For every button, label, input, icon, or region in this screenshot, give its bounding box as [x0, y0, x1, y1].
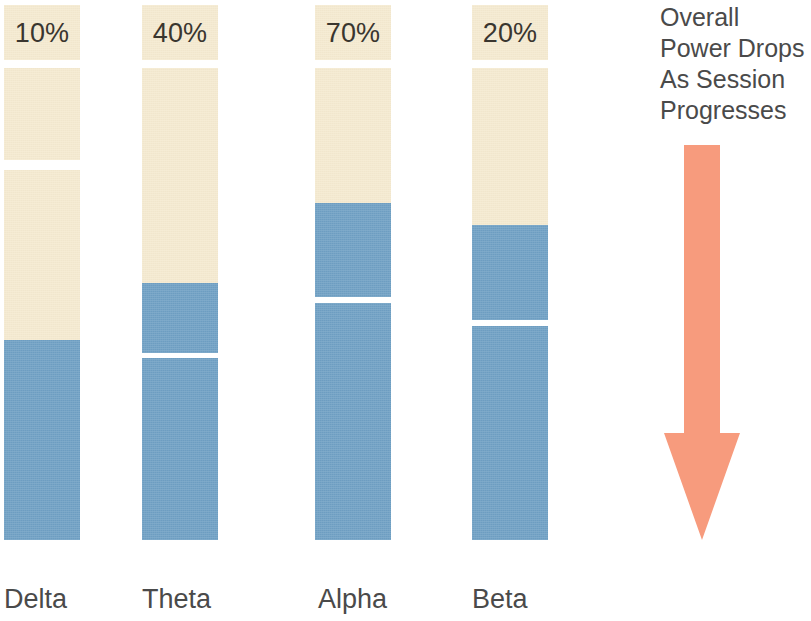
bar-column-alpha: 70% — [315, 5, 391, 540]
annotation-line-1: Overall — [660, 2, 811, 33]
bar-segment-alpha-4-blue — [315, 303, 391, 540]
bar-column-beta: 20% — [472, 5, 548, 540]
bar-segment-alpha-2-cream — [315, 68, 391, 203]
bar-segment-delta-3-cream — [4, 170, 80, 340]
bar-segment-beta-3-blue — [472, 225, 548, 320]
annotation-line-2: Power Drops — [660, 33, 811, 64]
bar-column-delta: 10% — [4, 5, 80, 540]
downward-trend-arrow — [662, 145, 742, 540]
bar-segment-theta-2-cream — [142, 68, 218, 283]
annotation-text-block: OverallPower DropsAs SessionProgresses — [660, 2, 811, 126]
bar-segment-theta-4-blue — [142, 358, 218, 540]
bar-segment-theta-1-cream: 40% — [142, 5, 218, 60]
bar-segment-alpha-1-cream: 70% — [315, 5, 391, 60]
category-label-beta: Beta — [472, 586, 528, 613]
bar-column-theta: 40% — [142, 5, 218, 540]
bar-segment-delta-4-blue — [4, 340, 80, 540]
stacked-bar-chart: 10%40%70%20% DeltaThetaAlphaBeta Overall… — [0, 0, 811, 621]
category-label-alpha: Alpha — [318, 586, 387, 613]
bar-segment-beta-1-cream: 20% — [472, 5, 548, 60]
percent-label-theta: 40% — [142, 19, 218, 46]
bar-segment-theta-3-blue — [142, 283, 218, 353]
bar-segment-beta-4-blue — [472, 326, 548, 540]
annotation-line-4: Progresses — [660, 95, 811, 126]
annotation-line-3: As Session — [660, 64, 811, 95]
bar-segment-delta-2-cream — [4, 68, 80, 160]
bar-segment-delta-1-cream: 10% — [4, 5, 80, 60]
percent-label-beta: 20% — [472, 19, 548, 46]
bar-segment-beta-2-cream — [472, 68, 548, 225]
category-label-delta: Delta — [4, 586, 67, 613]
category-label-theta: Theta — [142, 586, 211, 613]
percent-label-delta: 10% — [4, 19, 80, 46]
bar-segment-alpha-3-blue — [315, 203, 391, 297]
percent-label-alpha: 70% — [315, 19, 391, 46]
